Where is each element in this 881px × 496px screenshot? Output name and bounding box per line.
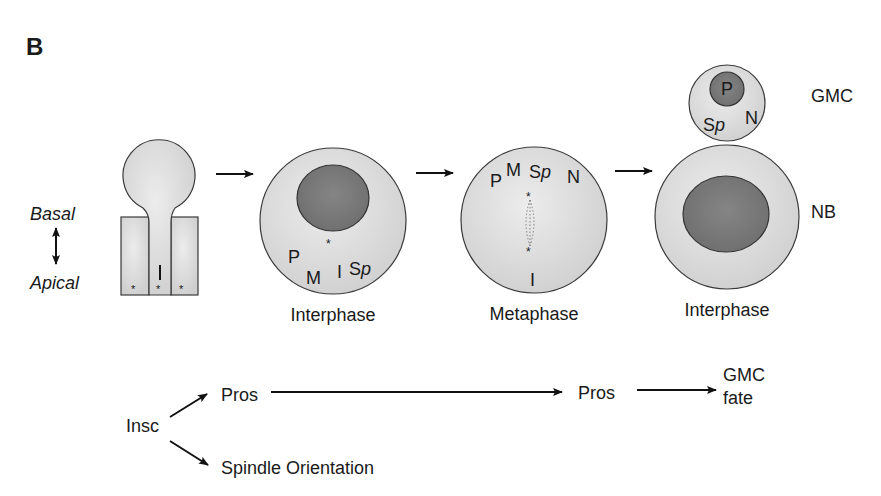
spindle-pole-top: * bbox=[526, 190, 531, 204]
branch-arrow-icon bbox=[170, 441, 208, 465]
gmc-label: GMC bbox=[811, 86, 853, 106]
prospero-label: P bbox=[490, 171, 502, 191]
neuroblast-division-diagram: B Basal Apical * * * * P M I Sp Interpha… bbox=[0, 0, 881, 496]
numb-label: N bbox=[567, 167, 580, 187]
stage-caption: Interphase bbox=[684, 300, 769, 320]
centrosome-mark: * bbox=[131, 283, 136, 295]
spindle-pole-bottom: * bbox=[526, 245, 531, 259]
nb-nucleus bbox=[683, 176, 769, 252]
staufen-label-s: Sp bbox=[349, 259, 371, 279]
gmc-fate-line2: fate bbox=[723, 388, 753, 408]
metaphase-neuroblast-stage: P M Sp N * * I Metaphase bbox=[461, 147, 607, 324]
basal-label: Basal bbox=[30, 204, 76, 224]
gmc-prospero-label: P bbox=[721, 79, 733, 99]
pathway-diagram: Insc Pros Spindle Orientation Pros GMC f… bbox=[126, 365, 765, 478]
nb-label: NB bbox=[811, 202, 836, 222]
staufen-label: Sp bbox=[529, 162, 551, 182]
neuroepithelium-stage: * * * bbox=[121, 140, 198, 295]
centrosome-mark: * bbox=[179, 283, 184, 295]
gmc-staufen-label: Sp bbox=[703, 115, 725, 135]
nucleus bbox=[297, 165, 369, 231]
miranda-label: M bbox=[306, 268, 321, 288]
stage-caption: Metaphase bbox=[489, 304, 578, 324]
gmc-numb-label: N bbox=[745, 108, 758, 128]
branch-arrow-icon bbox=[170, 394, 207, 417]
gmc-fate-line1: GMC bbox=[723, 365, 765, 385]
inscuteable-label: I bbox=[530, 270, 535, 290]
centrosome-mark: * bbox=[326, 237, 331, 251]
post-division-stage: P Sp N GMC NB Interphase bbox=[655, 65, 853, 320]
epithelial-cell-right bbox=[171, 217, 198, 295]
pros-label: Pros bbox=[221, 385, 258, 405]
panel-label: B bbox=[26, 33, 43, 60]
interphase-neuroblast-stage: * P M I Sp Interphase bbox=[260, 148, 406, 325]
insc-label: Insc bbox=[126, 416, 159, 436]
inscuteable-label: I bbox=[337, 262, 342, 282]
prospero-label: P bbox=[288, 247, 300, 267]
apical-basal-axis: Basal Apical bbox=[29, 204, 80, 293]
miranda-label: M bbox=[506, 160, 521, 180]
pros-label-2: Pros bbox=[578, 383, 615, 403]
apical-label: Apical bbox=[29, 273, 80, 293]
centrosome-mark: * bbox=[156, 283, 161, 295]
stage-caption: Interphase bbox=[290, 305, 375, 325]
spindle-orientation-label: Spindle Orientation bbox=[221, 458, 374, 478]
